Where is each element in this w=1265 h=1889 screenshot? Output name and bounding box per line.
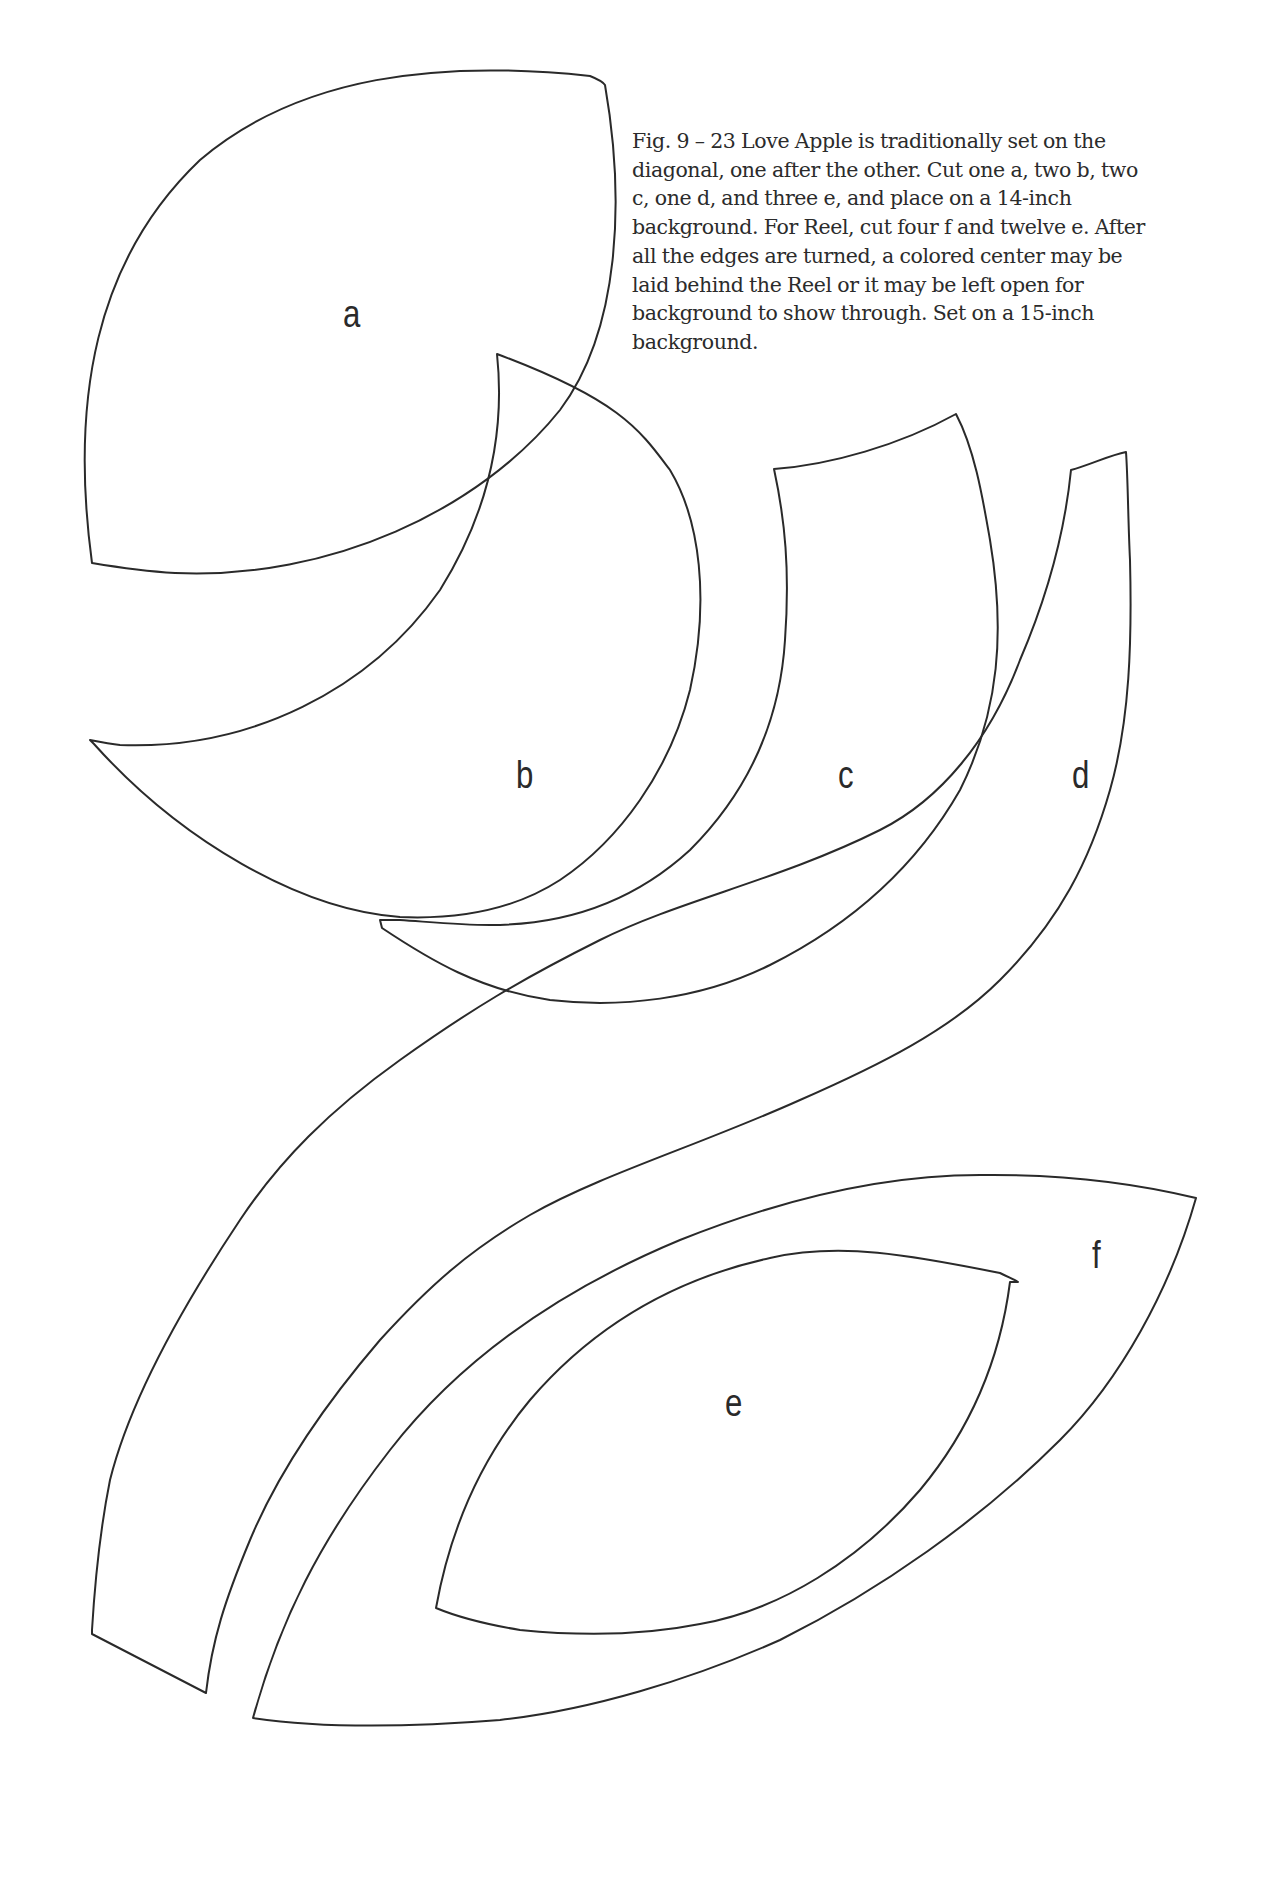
piece-f-outline — [253, 1175, 1196, 1726]
piece-f-label: f — [1092, 1236, 1101, 1274]
pattern-page: Fig. 9 – 23 Love Apple is traditionally … — [0, 0, 1265, 1889]
caption-line: background. For Reel, cut four f and twe… — [632, 213, 1232, 242]
caption-line: background. — [632, 328, 1232, 357]
piece-e-outline — [436, 1251, 1018, 1634]
piece-e-label: e — [725, 1384, 742, 1422]
figure-caption: Fig. 9 – 23 Love Apple is traditionally … — [632, 127, 1232, 357]
piece-a-label: a — [343, 295, 360, 333]
piece-b-outline — [90, 354, 700, 917]
caption-line: laid behind the Reel or it may be left o… — [632, 271, 1232, 300]
caption-line: c, one d, and three e, and place on a 14… — [632, 184, 1232, 213]
piece-d-label: d — [1072, 756, 1089, 794]
caption-line: all the edges are turned, a colored cent… — [632, 242, 1232, 271]
piece-b-label: b — [516, 756, 533, 794]
piece-d-outline — [92, 452, 1131, 1693]
caption-line: background to show through. Set on a 15-… — [632, 299, 1232, 328]
piece-c-outline — [380, 414, 998, 1003]
caption-line: diagonal, one after the other. Cut one a… — [632, 156, 1232, 185]
piece-c-label: c — [838, 756, 854, 794]
caption-line: Fig. 9 – 23 Love Apple is traditionally … — [632, 127, 1232, 156]
